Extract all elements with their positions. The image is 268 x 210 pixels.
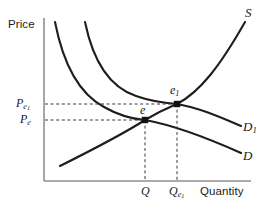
price-pe1-subscript-index: 1 [27, 104, 30, 111]
demand-curve-label: D [243, 149, 252, 162]
supply-demand-figure: Price Quantity S D1 D e e1 Pe1 Pe Q Qe1 [0, 0, 268, 210]
demand-curve [55, 22, 241, 153]
quantity-tick-q: Q [141, 185, 150, 197]
y-axis-title: Price [8, 19, 35, 31]
price-tick-pe: Pe [20, 113, 31, 127]
quantity-qe1-base: Q [169, 184, 178, 198]
price-tick-pe1: Pe1 [16, 97, 30, 111]
quantity-tick-qe1: Qe1 [169, 185, 184, 199]
equilibrium-point-e [142, 117, 148, 123]
demand-shifted-subscript: 1 [252, 125, 256, 135]
equilibrium-point-e1 [174, 101, 180, 107]
demand-shifted-curve-label: D1 [243, 120, 257, 135]
price-pe-subscript: e [27, 118, 31, 127]
equilibrium-label-e: e [140, 104, 145, 116]
plot-canvas [0, 0, 268, 210]
quantity-qe1-subscript-index: 1 [181, 192, 184, 199]
equilibrium-label-e1: e1 [170, 84, 179, 98]
equilibrium-e1-subscript: 1 [175, 89, 179, 98]
x-axis-title: Quantity [200, 186, 244, 198]
supply-curve-label: S [245, 6, 252, 19]
demand-shifted-base: D [243, 119, 252, 134]
